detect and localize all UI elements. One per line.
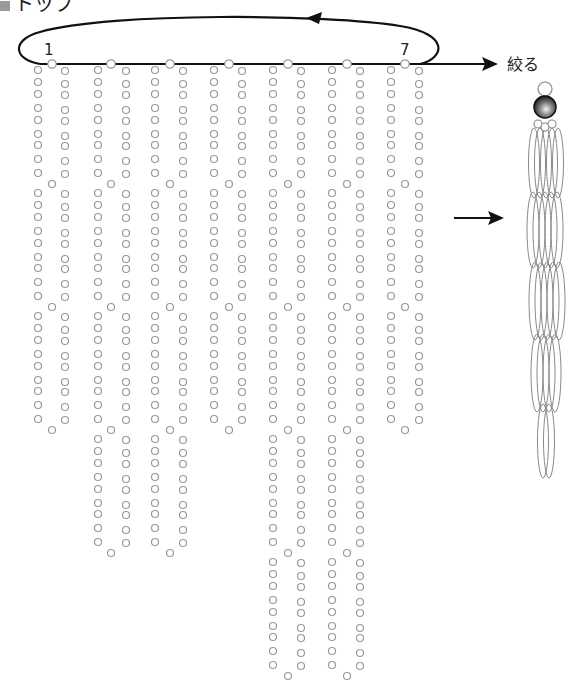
bead <box>180 191 187 198</box>
bead <box>152 131 159 138</box>
bead <box>35 240 42 247</box>
bead <box>388 170 395 177</box>
cross-bead <box>49 427 56 434</box>
bead <box>211 265 218 272</box>
bead <box>416 379 423 386</box>
bead <box>123 204 130 211</box>
cross-bead <box>108 304 115 311</box>
bead <box>416 417 423 424</box>
bead <box>95 190 102 197</box>
bead <box>298 215 305 222</box>
bead <box>298 527 305 534</box>
bead <box>239 204 246 211</box>
bead <box>357 241 364 248</box>
bead <box>329 325 336 332</box>
bead <box>152 511 159 518</box>
bead <box>270 500 277 507</box>
bead <box>239 338 246 345</box>
bead <box>62 364 69 371</box>
bead <box>329 142 336 149</box>
bead <box>180 68 187 75</box>
cross-bead <box>167 304 174 311</box>
bead <box>329 559 336 566</box>
bead <box>35 377 42 384</box>
bead <box>357 450 364 457</box>
bead <box>152 337 159 344</box>
bead <box>239 215 246 222</box>
bead <box>298 610 305 617</box>
bead <box>298 353 305 360</box>
bead <box>357 540 364 547</box>
bead <box>329 416 336 423</box>
bead <box>270 279 277 286</box>
bead <box>388 279 395 286</box>
bead <box>152 351 159 358</box>
bead <box>270 623 277 630</box>
bead <box>62 107 69 114</box>
bead <box>62 353 69 360</box>
bead <box>180 379 187 386</box>
bead <box>35 265 42 272</box>
bead <box>329 156 336 163</box>
cross-bead <box>344 673 351 680</box>
bead <box>239 256 246 263</box>
bead <box>211 170 218 177</box>
bead <box>180 338 187 345</box>
cross-bead <box>108 550 115 557</box>
bead <box>329 190 336 197</box>
bead <box>35 254 42 261</box>
bead <box>357 461 364 468</box>
start-number-label: 1 <box>44 41 54 59</box>
bead <box>95 351 102 358</box>
bead <box>152 214 159 221</box>
bead <box>357 353 364 360</box>
bead <box>211 105 218 112</box>
bead <box>95 511 102 518</box>
bead <box>35 279 42 286</box>
tassel-small-bead <box>548 120 556 128</box>
bead <box>416 389 423 396</box>
bead <box>298 404 305 411</box>
bead <box>35 131 42 138</box>
bead <box>62 294 69 301</box>
bead-strands <box>35 60 423 680</box>
loop-arrow-icon <box>306 12 322 24</box>
bead <box>357 338 364 345</box>
bead <box>62 215 69 222</box>
tassel-top-bead <box>538 82 552 96</box>
bead <box>388 91 395 98</box>
bead <box>211 351 218 358</box>
bead <box>95 202 102 209</box>
bead <box>388 131 395 138</box>
bead <box>123 68 130 75</box>
bead <box>62 379 69 386</box>
bead <box>180 266 187 273</box>
bead <box>35 293 42 300</box>
bead <box>357 327 364 334</box>
bead <box>388 265 395 272</box>
cross-bead <box>167 427 174 434</box>
cross-bead <box>226 427 233 434</box>
bead <box>95 388 102 395</box>
bead <box>123 389 130 396</box>
bead <box>35 170 42 177</box>
bead <box>239 143 246 150</box>
bead <box>357 191 364 198</box>
bead <box>357 256 364 263</box>
bead-pattern-diagram: 1 7 絞る <box>0 0 588 692</box>
bead <box>298 191 305 198</box>
bead <box>152 460 159 467</box>
bead <box>357 437 364 444</box>
bead <box>329 486 336 493</box>
bead <box>180 314 187 321</box>
bead <box>180 107 187 114</box>
bead <box>388 293 395 300</box>
bead <box>388 325 395 332</box>
cross-bead <box>108 427 115 434</box>
bead <box>329 105 336 112</box>
bead <box>211 279 218 286</box>
bead <box>152 377 159 384</box>
bead <box>35 337 42 344</box>
bead <box>123 502 130 509</box>
bead <box>239 191 246 198</box>
